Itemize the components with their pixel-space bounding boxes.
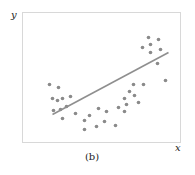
plot-frame xyxy=(23,13,181,143)
data-point xyxy=(56,99,60,103)
data-point xyxy=(83,128,87,132)
data-point xyxy=(156,62,160,66)
data-point xyxy=(137,101,141,105)
data-point xyxy=(157,38,161,42)
data-point xyxy=(125,103,129,107)
regression-line xyxy=(53,53,169,115)
data-point xyxy=(48,83,52,87)
data-point xyxy=(103,120,107,124)
data-point xyxy=(164,79,168,83)
data-point xyxy=(123,97,127,101)
data-point xyxy=(117,106,121,110)
data-point xyxy=(105,110,109,114)
data-point xyxy=(52,109,56,113)
data-point xyxy=(132,83,136,87)
data-point xyxy=(133,94,137,98)
data-point xyxy=(159,48,163,52)
data-point xyxy=(61,97,65,101)
data-point xyxy=(149,43,153,47)
data-point xyxy=(61,117,65,121)
data-point xyxy=(74,112,78,116)
data-point xyxy=(114,124,118,128)
data-point xyxy=(51,97,55,101)
data-point xyxy=(83,119,87,123)
scatter-chart: y x (b) xyxy=(0,0,195,175)
data-point xyxy=(149,51,153,55)
data-point xyxy=(88,114,92,118)
data-point xyxy=(128,90,132,94)
data-point xyxy=(69,95,73,99)
y-axis-label: y xyxy=(10,9,17,20)
data-points xyxy=(48,36,168,132)
x-axis-label: x xyxy=(175,142,181,153)
figure-caption: (b) xyxy=(85,151,99,162)
data-point xyxy=(57,86,61,90)
data-point xyxy=(123,110,127,114)
data-point xyxy=(95,125,99,129)
data-point xyxy=(142,83,146,87)
data-point xyxy=(97,107,101,111)
data-point xyxy=(141,46,145,50)
data-point xyxy=(147,36,151,40)
